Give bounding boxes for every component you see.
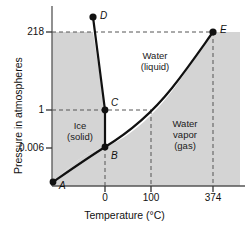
x-tick-label-0: 0 (85, 192, 125, 203)
point-label-a: A (59, 180, 66, 191)
point-label-d: D (100, 10, 107, 21)
y-tick-label-0006: 0.006 (4, 142, 44, 153)
x-tick-label-374: 374 (193, 192, 233, 203)
point-c-marker (102, 107, 109, 114)
region-label-liquid-line2: (liquid) (126, 61, 184, 72)
region-label-gas: Water vapor (gas) (160, 118, 210, 151)
y-tick-label-218: 218 (4, 26, 44, 37)
y-tick-label-1: 1 (4, 104, 44, 115)
region-label-gas-line2: vapor (160, 129, 210, 140)
region-label-ice-line1: Ice (56, 120, 104, 131)
region-label-liquid-line1: Water (126, 50, 184, 61)
region-label-ice: Ice (solid) (56, 120, 104, 142)
point-label-e: E (220, 24, 227, 35)
region-label-ice-line2: (solid) (56, 131, 104, 142)
region-top-white (52, 0, 240, 32)
region-label-gas-line1: Water (160, 118, 210, 129)
point-label-b: B (111, 150, 118, 161)
point-a-marker (50, 179, 57, 186)
point-b-marker (102, 144, 109, 151)
x-tick-label-100: 100 (131, 192, 171, 203)
region-label-liquid: Water (liquid) (126, 50, 184, 72)
point-d-marker (89, 13, 96, 20)
x-axis-title: Temperature (°C) (0, 209, 249, 221)
region-label-gas-line3: (gas) (160, 140, 210, 151)
point-label-c: C (111, 97, 118, 108)
point-e-marker (209, 28, 216, 35)
phase-diagram-figure: 218 1 0.006 0 100 374 Temperature (°C) P… (0, 0, 249, 232)
y-axis-title: Pressure in atmospheres (12, 57, 24, 174)
